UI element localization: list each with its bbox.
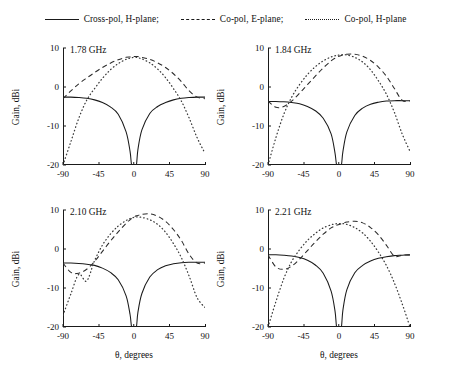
y-axis-tick-label: 0 bbox=[260, 82, 269, 92]
x-axis-tick-label: 0 bbox=[132, 165, 137, 179]
x-axis-tick-label: 45 bbox=[370, 327, 379, 341]
series-dashed bbox=[63, 57, 205, 99]
radiation-pattern-figure: Cross-pol, H-plane; Co-pol, E-plane; Co-… bbox=[0, 0, 451, 392]
series-dotted bbox=[268, 224, 410, 327]
legend-label: Co-pol, H-plane bbox=[344, 14, 406, 24]
x-axis-tick-label: -90 bbox=[262, 165, 274, 179]
series-solid bbox=[63, 262, 205, 328]
legend-item-co-pol-e-plane: Co-pol, E-plane; bbox=[181, 14, 284, 24]
plot-axes: 100-10-20-90-4504590 bbox=[268, 210, 410, 327]
y-axis-tick-label: 10 bbox=[50, 205, 63, 215]
plot-axes: 100-10-20-90-4504590 bbox=[268, 48, 410, 165]
x-axis-tick-label: 45 bbox=[165, 165, 174, 179]
x-axis-tick-label: -45 bbox=[298, 165, 310, 179]
series-solid bbox=[63, 97, 205, 166]
x-axis-tick-label: 0 bbox=[132, 327, 137, 341]
x-axis-tick-label: 0 bbox=[337, 327, 342, 341]
series-dotted bbox=[268, 55, 410, 165]
x-axis-tick-label: -45 bbox=[298, 327, 310, 341]
subplot-grid: 1.78 GHzGain, dBi100-10-20-90-45045901.8… bbox=[0, 36, 451, 388]
y-axis-tick-label: -10 bbox=[47, 283, 63, 293]
curve-layer bbox=[63, 210, 205, 327]
curve-layer bbox=[268, 48, 410, 165]
series-dashed bbox=[268, 221, 410, 269]
legend-item-cross-pol-h-plane: Cross-pol, H-plane; bbox=[45, 14, 159, 24]
y-axis-tick-label: 10 bbox=[255, 205, 268, 215]
x-axis-tick-label: 90 bbox=[406, 327, 415, 341]
y-axis-label: Gain, dBi bbox=[216, 89, 226, 125]
chart-legend: Cross-pol, H-plane; Co-pol, E-plane; Co-… bbox=[0, 14, 451, 24]
y-axis-tick-label: 10 bbox=[255, 43, 268, 53]
x-axis-tick-label: 90 bbox=[201, 327, 210, 341]
x-axis-tick-label: 45 bbox=[370, 165, 379, 179]
legend-swatch-solid-icon bbox=[45, 16, 79, 23]
legend-swatch-dotted-icon bbox=[305, 16, 339, 23]
y-axis-tick-label: 0 bbox=[55, 82, 64, 92]
y-axis-tick-label: -10 bbox=[252, 283, 268, 293]
series-dotted bbox=[63, 217, 205, 315]
x-axis-label: θ, degrees bbox=[320, 350, 358, 360]
curve-layer bbox=[63, 48, 205, 165]
x-axis-tick-label: -90 bbox=[57, 327, 69, 341]
y-axis-tick-label: 0 bbox=[260, 244, 269, 254]
legend-label: Cross-pol, H-plane; bbox=[84, 14, 159, 24]
y-axis-tick-label: 0 bbox=[55, 244, 64, 254]
y-axis-tick-label: 10 bbox=[50, 43, 63, 53]
series-solid bbox=[268, 101, 410, 166]
x-axis-tick-label: -90 bbox=[262, 327, 274, 341]
plot-axes: 100-10-20-90-4504590 bbox=[63, 210, 205, 327]
x-axis-label: θ, degrees bbox=[115, 350, 153, 360]
x-axis-tick-label: 45 bbox=[165, 327, 174, 341]
x-axis-tick-label: -45 bbox=[93, 165, 105, 179]
y-axis-label: Gain, dBi bbox=[11, 89, 21, 125]
x-axis-tick-label: 0 bbox=[337, 165, 342, 179]
x-axis-tick-label: 90 bbox=[406, 165, 415, 179]
y-axis-label: Gain, dBi bbox=[216, 251, 226, 287]
x-axis-tick-label: -90 bbox=[57, 165, 69, 179]
y-axis-tick-label: -10 bbox=[252, 121, 268, 131]
legend-item-co-pol-h-plane: Co-pol, H-plane bbox=[305, 14, 406, 24]
curve-layer bbox=[268, 210, 410, 327]
y-axis-tick-label: -10 bbox=[47, 121, 63, 131]
x-axis-tick-label: 90 bbox=[201, 165, 210, 179]
plot-axes: 100-10-20-90-4504590 bbox=[63, 48, 205, 165]
legend-label: Co-pol, E-plane; bbox=[220, 14, 284, 24]
legend-swatch-dashed-icon bbox=[181, 16, 215, 23]
x-axis-tick-label: -45 bbox=[93, 327, 105, 341]
y-axis-label: Gain, dBi bbox=[11, 251, 21, 287]
series-dashed bbox=[63, 214, 205, 274]
series-dotted bbox=[63, 57, 205, 165]
